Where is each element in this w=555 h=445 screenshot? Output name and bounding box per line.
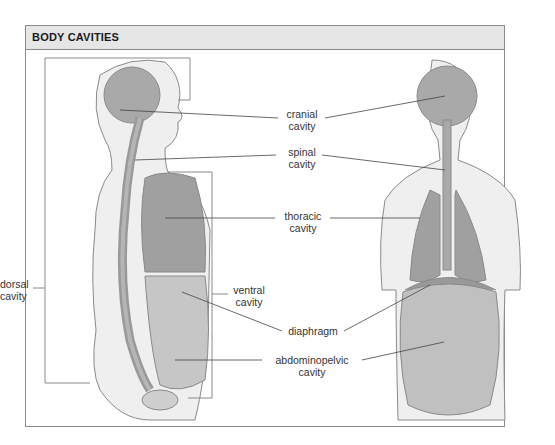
cranial-cavity-front	[417, 66, 477, 126]
label-text: cranial	[280, 108, 324, 120]
label-text: cavity	[280, 158, 324, 170]
label-text: cavity	[0, 290, 34, 302]
abdominopelvic-cavity-front	[400, 284, 499, 415]
cranial-cavity-side	[104, 67, 160, 123]
label-text: cavity	[228, 296, 270, 308]
label-text: dorsal	[0, 278, 34, 290]
label-spinal-cavity: spinal cavity	[280, 146, 324, 170]
label-cranial-cavity: cranial cavity	[280, 108, 324, 132]
label-diaphragm: diaphragm	[282, 325, 344, 337]
label-text: thoracic	[278, 210, 328, 222]
front-view-figure	[381, 60, 521, 420]
side-view-figure	[33, 58, 228, 420]
label-ventral-cavity: ventral cavity	[228, 284, 270, 308]
label-text: cavity	[280, 120, 324, 132]
label-thoracic-cavity: thoracic cavity	[278, 210, 328, 234]
label-text: cavity	[278, 222, 328, 234]
label-text: cavity	[262, 366, 362, 378]
label-text: diaphragm	[282, 325, 344, 337]
label-text: spinal	[280, 146, 324, 158]
label-text: abdominopelvic	[262, 354, 362, 366]
thoracic-cavity-side	[142, 173, 206, 272]
label-text: ventral	[228, 284, 270, 296]
label-dorsal-cavity: dorsal cavity	[0, 278, 34, 302]
label-abdominopelvic-cavity: abdominopelvic cavity	[262, 354, 362, 378]
